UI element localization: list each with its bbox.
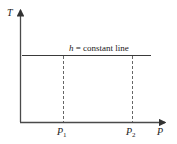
line-label: h = constant line [69,43,129,53]
y-axis-label: T [7,7,14,18]
x-axis-label: P [156,126,163,137]
throttling-diagram: T P h = constant line P1 P2 [0,0,177,144]
p2-label: P2 [125,126,136,139]
p1-label: P1 [56,126,67,139]
